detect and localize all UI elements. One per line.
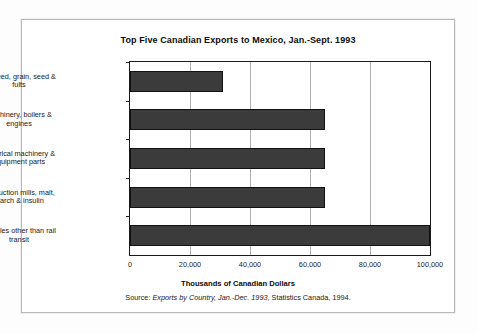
bar[interactable]	[130, 148, 325, 169]
y-axis-tick	[126, 101, 130, 102]
bar[interactable]	[130, 225, 430, 246]
category-label-line: engines	[0, 120, 74, 129]
category-label-line: equipment parts	[0, 158, 74, 167]
x-tick-label: 80,000	[340, 260, 400, 269]
category-label-line: Oil seed, grain, seed &	[0, 73, 74, 82]
y-axis-tick	[126, 178, 130, 179]
x-axis-title: Thousands of Canadian Dollars	[22, 279, 454, 288]
bar[interactable]	[130, 71, 223, 92]
bar-row	[130, 101, 430, 140]
page-background: Top Five Canadian Exports to Mexico, Jan…	[0, 0, 477, 334]
source-note: Source: Exports by Country, Jan.-Dec. 19…	[22, 293, 454, 302]
source-citation: Exports by Country, Jan.-Dec. 1993	[152, 293, 267, 302]
category-label: Production mills, malt,starch & insulin	[0, 189, 74, 206]
category-label: Oil seed, grain, seed &fults	[0, 73, 74, 90]
figure-frame: Top Five Canadian Exports to Mexico, Jan…	[21, 19, 455, 313]
category-label-line: starch & insulin	[0, 197, 74, 206]
source-prefix: Source:	[125, 293, 150, 302]
category-label: Machinery, boilers &engines	[0, 111, 74, 128]
y-axis-tick	[126, 216, 130, 217]
category-label: Vehicles other than railtransit	[0, 227, 74, 244]
category-label-line: transit	[0, 236, 74, 245]
plot-area	[129, 61, 431, 256]
bar-row	[130, 216, 430, 255]
bar[interactable]	[130, 187, 325, 208]
source-suffix: , Statistics Canada, 1994.	[268, 293, 351, 302]
x-tick-label: 60,000	[280, 260, 340, 269]
bar[interactable]	[130, 109, 325, 130]
x-tick-label: 0	[100, 260, 160, 269]
x-tick-label: 40,000	[220, 260, 280, 269]
y-axis-tick	[126, 139, 130, 140]
x-tick-label: 20,000	[160, 260, 220, 269]
bar-row	[130, 178, 430, 217]
chart-title: Top Five Canadian Exports to Mexico, Jan…	[22, 35, 454, 45]
bar-row	[130, 139, 430, 178]
x-tick-label: 100,000	[400, 260, 460, 269]
y-axis-tick	[126, 62, 130, 63]
category-label: Electrical machinery &equipment parts	[0, 150, 74, 167]
category-label-line: fults	[0, 81, 74, 90]
bar-row	[130, 62, 430, 101]
